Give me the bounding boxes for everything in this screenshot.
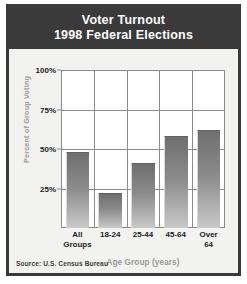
category-separator	[159, 70, 160, 228]
x-tick-label-line: 64	[192, 240, 225, 250]
x-tick-label: Over64	[192, 230, 225, 250]
x-tick-label-line: Groups	[61, 240, 94, 250]
y-axis-title: Percent of Group Voting	[22, 70, 31, 170]
bar-slot	[127, 70, 160, 228]
chart-title-line-1: Voter Turnout	[82, 13, 165, 28]
bar-slot	[61, 70, 94, 228]
bar-slot	[159, 70, 192, 228]
chart-frame: Voter Turnout 1998 Federal Elections Per…	[6, 4, 241, 276]
category-separator	[127, 70, 128, 228]
x-tick-label-line: 25-44	[127, 230, 160, 240]
chart-body: Percent of Group Voting 100%75%50%25% Al…	[9, 49, 238, 273]
chart-title-line-2: 1998 Federal Elections	[54, 28, 193, 43]
x-tick-labels: AllGroups18-2425-4445-64Over64	[61, 230, 225, 260]
bars-group	[61, 70, 225, 228]
bar	[164, 136, 188, 228]
x-tick-label: 45-64	[159, 230, 192, 240]
x-tick-label: 25-44	[127, 230, 160, 240]
y-tick-label: 25%	[40, 184, 56, 193]
x-tick-label: 18-24	[94, 230, 127, 240]
source-note: Source: U.S. Census Bureau	[16, 260, 108, 267]
y-tick-label: 75%	[40, 105, 56, 114]
bar	[131, 163, 155, 228]
x-tick-label-line: Over	[192, 230, 225, 240]
x-tick-label-line: 45-64	[159, 230, 192, 240]
bar	[197, 130, 221, 228]
bar	[98, 193, 122, 228]
x-tick-label: AllGroups	[61, 230, 94, 250]
y-tick-label: 100%	[36, 66, 56, 75]
bar-slot	[192, 70, 225, 228]
bar-slot	[94, 70, 127, 228]
x-tick-label-line: 18-24	[94, 230, 127, 240]
chart-screenshot: Voter Turnout 1998 Federal Elections Per…	[0, 0, 247, 284]
chart-title-banner: Voter Turnout 1998 Federal Elections	[9, 7, 238, 49]
bar	[66, 152, 90, 228]
category-separator	[94, 70, 95, 228]
y-tick-label: 50%	[40, 145, 56, 154]
x-tick-label-line: All	[61, 230, 94, 240]
category-separator	[192, 70, 193, 228]
plot-wrap: 100%75%50%25%	[61, 70, 225, 228]
